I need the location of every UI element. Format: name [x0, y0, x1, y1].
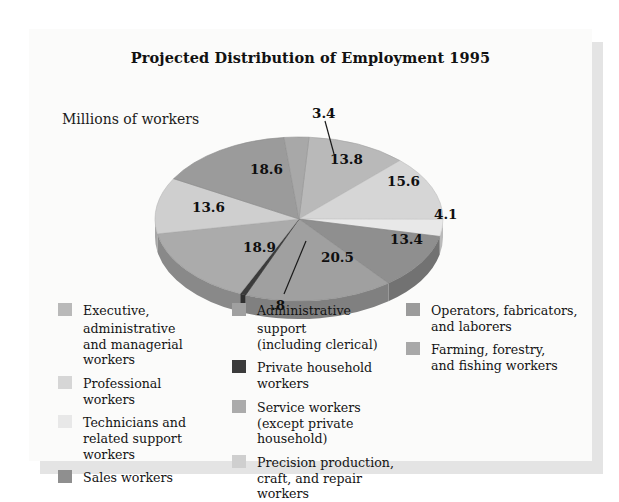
legend-item-label: Administrative support(including clerica…	[257, 303, 404, 352]
legend-item[interactable]: Executive, administrativeand managerial …	[58, 301, 236, 368]
legend-item[interactable]: Technicians andrelated support workers	[58, 413, 236, 462]
legend-item[interactable]: Administrative support(including clerica…	[232, 301, 404, 352]
legend-item-label: Executive, administrativeand managerial …	[83, 303, 236, 368]
legend-color-swatch	[232, 360, 246, 373]
pie-slice-value: 20.5	[321, 249, 354, 265]
legend-item[interactable]: Precision production,craft, and repair w…	[232, 453, 404, 502]
legend-item[interactable]: Sales workers	[58, 468, 236, 487]
legend-color-swatch	[406, 303, 420, 316]
legend-item[interactable]: Operators, fabricators,and laborers	[406, 301, 586, 334]
legend-color-swatch	[232, 303, 246, 316]
legend-item-label: Professionalworkers	[83, 376, 236, 407]
legend-color-swatch	[406, 342, 420, 355]
page-title: Projected Distribution of Employment 199…	[29, 49, 592, 66]
pie-slice-value: 13.8	[330, 151, 363, 167]
legend-item-label: Operators, fabricators,and laborers	[431, 303, 586, 334]
legend-item[interactable]: Service workers(except private household…	[232, 398, 404, 447]
pie-callout-value-top: 3.4	[312, 105, 336, 121]
chart-card: Projected Distribution of Employment 199…	[29, 29, 592, 461]
legend: Executive, administrativeand managerial …	[58, 301, 592, 436]
legend-item-label: Private householdworkers	[257, 360, 404, 391]
legend-column-2: Administrative support(including clerica…	[232, 301, 404, 502]
legend-item-label: Farming, forestry,and fishing workers	[431, 342, 586, 373]
pie-slice-value: 4.1	[434, 206, 458, 222]
legend-column-3: Operators, fabricators,and laborersFarmi…	[406, 301, 586, 380]
pie-slice-value: 18.9	[243, 239, 276, 255]
legend-item[interactable]: Private householdworkers	[232, 358, 404, 391]
legend-color-swatch	[58, 303, 72, 316]
legend-color-swatch	[232, 400, 246, 413]
legend-item-label: Precision production,craft, and repair w…	[257, 455, 404, 502]
pie-slice-value: 13.4	[390, 231, 423, 247]
legend-item-label: Technicians andrelated support workers	[83, 415, 236, 462]
legend-item[interactable]: Professionalworkers	[58, 374, 236, 407]
pie-slice-value: 13.6	[192, 199, 225, 215]
legend-column-1: Executive, administrativeand managerial …	[58, 301, 236, 493]
legend-color-swatch	[58, 470, 72, 483]
legend-item-label: Service workers(except private household…	[257, 400, 404, 447]
pie-chart-svg	[134, 91, 464, 321]
pie-slice-value: 15.6	[387, 173, 420, 189]
pie-top-slices	[155, 137, 443, 301]
legend-color-swatch	[58, 415, 72, 428]
legend-item-label: Sales workers	[83, 470, 173, 485]
pie-slice-value: 18.6	[250, 161, 283, 177]
legend-item[interactable]: Farming, forestry,and fishing workers	[406, 340, 586, 373]
legend-color-swatch	[232, 455, 246, 468]
legend-color-swatch	[58, 376, 72, 389]
pie-chart: 13.815.64.113.420.518.913.618.63.4.8	[134, 91, 464, 321]
